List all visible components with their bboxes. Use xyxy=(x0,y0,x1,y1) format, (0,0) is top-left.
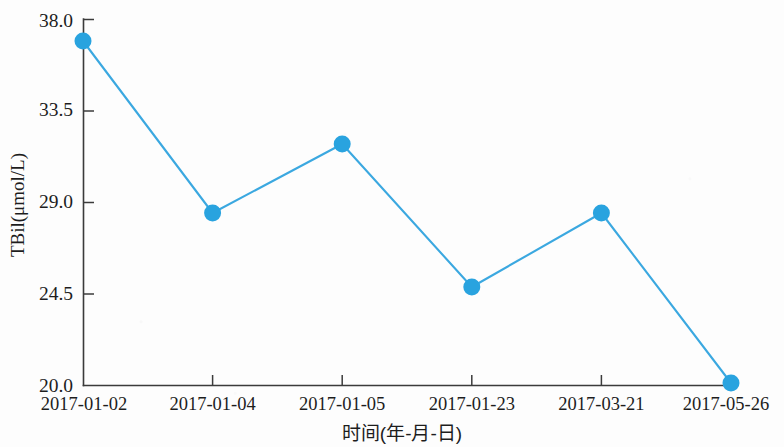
data-point-2017-01-02 xyxy=(75,33,92,50)
data-point-2017-05-26 xyxy=(723,375,740,392)
data-point-2017-01-23 xyxy=(463,279,480,296)
y-tick-label-24-5: 24.5 xyxy=(39,283,73,304)
x-tick-label-4: 2017-03-21 xyxy=(558,394,644,414)
y-tick-label-20: 20.0 xyxy=(39,375,73,396)
data-point-2017-01-04 xyxy=(204,205,221,222)
x-tick-label-0: 2017-01-02 xyxy=(41,394,127,414)
y-tick-label-29: 29.0 xyxy=(39,191,73,212)
x-tick-label-5: 2017-05-26 xyxy=(683,394,769,414)
tbil-series-line xyxy=(83,41,731,383)
y-tick-label-33-5: 33.5 xyxy=(39,99,73,120)
x-tick-label-3: 2017-01-23 xyxy=(429,394,515,414)
y-axis-title: TBil(μmol/L) xyxy=(7,153,29,257)
y-tick-label-38: 38.0 xyxy=(39,10,73,31)
data-point-2017-01-05 xyxy=(334,136,351,153)
x-tick-label-2: 2017-01-05 xyxy=(299,394,385,414)
x-axis-title: 时间(年-月-日) xyxy=(342,423,462,444)
x-tick-label-1: 2017-01-04 xyxy=(169,394,255,414)
tbil-time-series-chart: TBil(μmol/L) 38.0 33.5 29.0 24.5 20.0 20… xyxy=(0,0,784,447)
chart-plot-area: TBil(μmol/L) 38.0 33.5 29.0 24.5 20.0 20… xyxy=(0,0,784,447)
data-point-2017-03-21 xyxy=(593,205,610,222)
